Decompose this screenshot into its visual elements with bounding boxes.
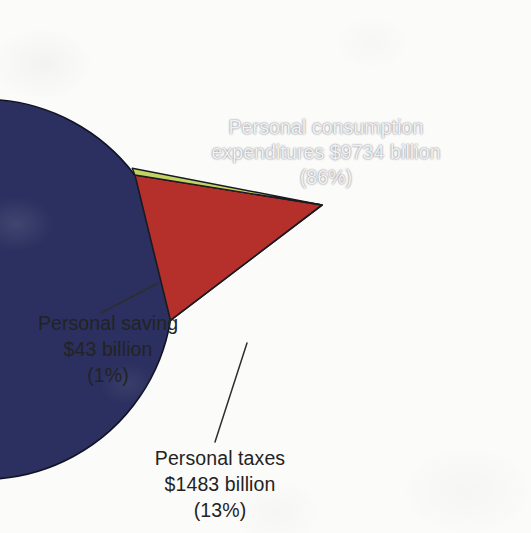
slice-label-line-2: $1483 billion [110, 471, 330, 497]
slice-label-percent: (13%) [110, 497, 330, 523]
slice-label-personal-taxes: Personal taxes $1483 billion (13%) [110, 445, 330, 523]
slice-label-line-1: Personal taxes [110, 445, 330, 471]
leader-line-personal-taxes [215, 343, 247, 442]
slice-label-line-2: expenditures $9734 billion [181, 140, 471, 165]
slice-label-personal-consumption: Personal consumption expenditures $9734 … [181, 115, 471, 190]
pie-chart-figure: Personal consumption expenditures $9734 … [0, 0, 531, 533]
slice-label-personal-saving: Personal saving $43 billion (1%) [8, 310, 208, 388]
slice-label-percent: (1%) [8, 362, 208, 388]
slice-label-line-1: Personal saving [8, 310, 208, 336]
slice-label-line-2: $43 billion [8, 336, 208, 362]
slice-label-line-1: Personal consumption [181, 115, 471, 140]
slice-label-percent: (86%) [181, 165, 471, 190]
